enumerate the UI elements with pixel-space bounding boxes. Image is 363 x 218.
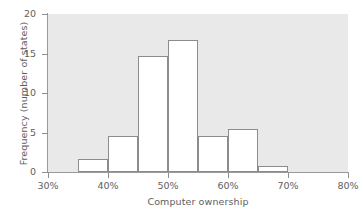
x-axis-tick — [48, 173, 49, 178]
x-axis-tick-label: 60% — [208, 180, 248, 191]
x-axis-title: Computer ownership — [48, 196, 348, 207]
y-axis-tick-label: 20 — [2, 8, 36, 19]
histogram-bar — [198, 136, 228, 172]
x-axis-tick-label: 40% — [88, 180, 128, 191]
x-axis-tick-label: 80% — [328, 180, 363, 191]
histogram-bar — [258, 166, 288, 172]
x-axis-tick — [288, 173, 289, 178]
histogram-bar — [228, 129, 258, 172]
histogram-bar — [138, 56, 168, 172]
y-axis-tick-label: 0 — [2, 166, 36, 177]
y-axis-tick-label: 10 — [2, 87, 36, 98]
histogram-bar — [78, 159, 108, 172]
x-axis-line — [47, 172, 349, 173]
y-axis-tick — [42, 14, 48, 15]
histogram-bar — [168, 40, 198, 172]
x-axis-tick — [168, 173, 169, 178]
y-axis-tick — [42, 54, 48, 55]
x-axis-tick-label: 50% — [148, 180, 188, 191]
y-axis-tick — [42, 93, 48, 94]
histogram-bar — [108, 136, 138, 172]
x-axis-tick — [108, 173, 109, 178]
x-axis-tick-label: 70% — [268, 180, 308, 191]
x-axis-tick-label: 30% — [28, 180, 68, 191]
y-axis-tick-label: 5 — [2, 127, 36, 138]
x-axis-tick — [228, 173, 229, 178]
y-axis-tick-label: 15 — [2, 48, 36, 59]
plot-area — [48, 14, 348, 172]
x-axis-tick — [348, 173, 349, 178]
y-axis-tick — [42, 133, 48, 134]
